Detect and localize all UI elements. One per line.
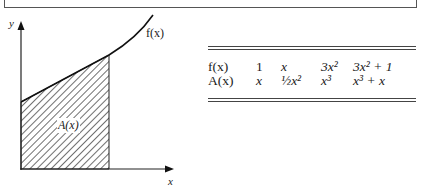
area-label: A(x) — [57, 118, 80, 133]
table-cell: 3x² — [321, 60, 338, 74]
x-axis-arrow-icon — [165, 166, 174, 173]
table-cell: x³ — [321, 74, 331, 88]
table-row: A(x) x ½x² x³ x³ + x — [208, 74, 416, 88]
table-row: f(x) 1 x 3x² 3x² + 1 — [208, 60, 416, 74]
table-cell: x — [281, 60, 287, 74]
area-under-curve-figure — [0, 0, 200, 190]
row-head: f(x) — [208, 60, 228, 74]
function-area-table: f(x) 1 x 3x² 3x² + 1 A(x) x ½x² x³ x³ + … — [208, 46, 416, 102]
table-cell: ½x² — [281, 74, 301, 88]
y-axis-arrow-icon — [18, 21, 25, 30]
table-bottom-rule — [208, 98, 416, 102]
x-axis-label: x — [168, 175, 173, 187]
row-head: A(x) — [208, 74, 234, 88]
table-cell: 1 — [256, 60, 263, 74]
y-axis-label: y — [9, 17, 14, 29]
table-cell: 3x² + 1 — [353, 60, 392, 74]
shaded-area — [21, 55, 109, 169]
table-cell: x³ + x — [353, 74, 385, 88]
curve-label: f(x) — [146, 26, 164, 41]
table-cell: x — [256, 74, 262, 88]
